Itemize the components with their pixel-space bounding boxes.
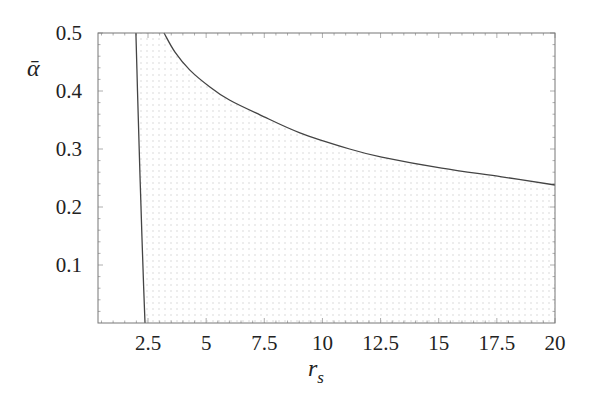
x-tick-label: 5 xyxy=(201,331,212,355)
x-tick-label: 20 xyxy=(545,331,566,355)
chart: 2.557.51012.51517.520 0.10.20.30.40.5 rs… xyxy=(0,0,595,399)
plot-area xyxy=(98,33,555,323)
x-tick-label: 7.5 xyxy=(251,331,277,355)
x-tick-label: 12.5 xyxy=(362,331,399,355)
x-tick-label: 15 xyxy=(428,331,449,355)
y-tick-label: 0.5 xyxy=(56,21,82,45)
x-tick-label: 2.5 xyxy=(135,331,161,355)
y-axis-label: ᾱ xyxy=(27,55,40,81)
x-axis-label: rs xyxy=(308,355,324,387)
y-tick-label: 0.4 xyxy=(56,79,83,103)
y-tick-label: 0.2 xyxy=(56,195,82,219)
y-tick-label: 0.3 xyxy=(56,137,82,161)
x-tick-labels: 2.557.51012.51517.520 xyxy=(135,331,566,355)
x-tick-label: 17.5 xyxy=(478,331,515,355)
x-tick-label: 10 xyxy=(312,331,333,355)
y-tick-labels: 0.10.20.30.40.5 xyxy=(56,21,83,277)
shaded-region xyxy=(136,33,555,323)
y-tick-label: 0.1 xyxy=(56,253,82,277)
